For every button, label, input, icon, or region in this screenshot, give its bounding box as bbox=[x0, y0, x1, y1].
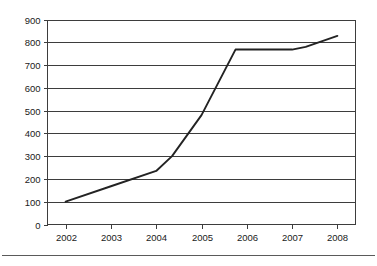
x-tick-label-2004: 2004 bbox=[146, 232, 167, 243]
x-tick-label-2007: 2007 bbox=[282, 232, 303, 243]
x-tick-label-2005: 2005 bbox=[192, 232, 213, 243]
y-tick-label-0: 0 bbox=[35, 220, 40, 231]
chart-figure: 0100200300400500600700800900 20022003200… bbox=[0, 0, 377, 266]
y-tick-label-800: 800 bbox=[25, 37, 41, 48]
x-tick-label-2006: 2006 bbox=[237, 232, 258, 243]
x-tick-label-2002: 2002 bbox=[56, 232, 77, 243]
y-tick-label-400: 400 bbox=[25, 128, 41, 139]
x-tick-label-2008: 2008 bbox=[327, 232, 348, 243]
line-chart: 0100200300400500600700800900 20022003200… bbox=[0, 0, 377, 266]
x-tick-label-2003: 2003 bbox=[101, 232, 122, 243]
y-tick-label-600: 600 bbox=[25, 83, 41, 94]
y-tick-label-300: 300 bbox=[25, 151, 41, 162]
y-tick-label-500: 500 bbox=[25, 106, 41, 117]
y-tick-label-100: 100 bbox=[25, 197, 41, 208]
y-tick-label-200: 200 bbox=[25, 174, 41, 185]
y-tick-label-700: 700 bbox=[25, 60, 41, 71]
y-tick-label-900: 900 bbox=[25, 15, 41, 26]
